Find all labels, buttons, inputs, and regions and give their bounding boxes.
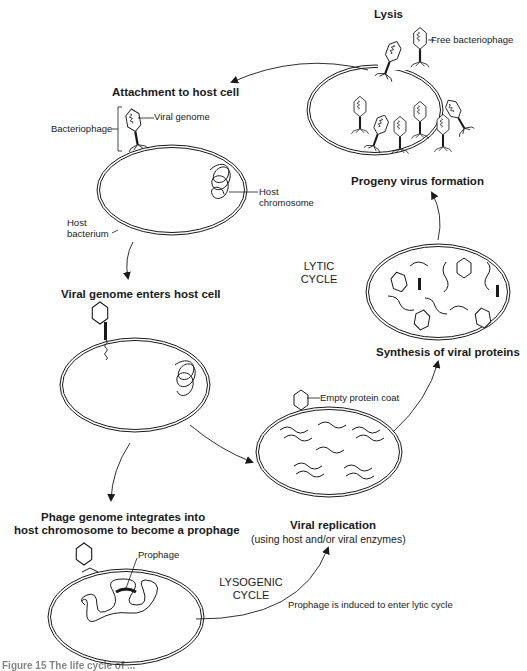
lysogenic-cycle-label: LYSOGENIC CYCLE [215,576,287,602]
figure-caption: Figure 15 The life cycle of ... [2,660,135,671]
label-host-chromosome-1: Host [259,186,279,197]
label-viral-genome: Viral genome [154,111,210,122]
label-host-chromosome-2: chromosome [259,197,314,208]
stage-attachment: Attachment to host cell [112,86,239,99]
prophage-cell [48,543,204,665]
lysogenic-line2: CYCLE [215,589,287,602]
attachment-cell [97,107,247,235]
lysogenic-line1: LYSOGENIC [215,576,287,589]
stage-lysis: Lysis [374,8,403,21]
stage-integration-line2: host chromosome to become a prophage [14,524,240,537]
stage-integration-line1: Phage genome integrates into [41,511,205,524]
stage-synthesis: Synthesis of viral proteins [376,346,520,359]
genome-entry-cell [60,302,210,432]
stage-progeny: Progeny virus formation [351,175,484,188]
label-prophage: Prophage [138,549,179,560]
label-bacteriophage: Bacteriophage [51,123,112,134]
lysis-cell [307,28,474,155]
lytic-line2: CYCLE [297,273,341,286]
phage-life-cycle-diagram [0,0,527,671]
label-host-bacterium-2: bacterium [67,228,109,239]
lytic-cycle-label: LYTIC CYCLE [297,260,341,286]
stage-genome-enters: Viral genome enters host cell [61,288,221,301]
label-host-bacterium-1: Host [67,217,87,228]
label-free-bacteriophage: Free bacteriophage [431,34,513,45]
replication-cell [256,390,402,497]
lytic-line1: LYTIC [297,260,341,273]
stage-replication: Viral replication [290,519,376,532]
label-induction: Prophage is induced to enter lytic cycle [288,599,453,610]
replication-note: (using host and/or viral enzymes) [251,533,406,545]
label-empty-protein-coat: Empty protein coat [320,392,399,403]
synthesis-cell [366,244,510,340]
